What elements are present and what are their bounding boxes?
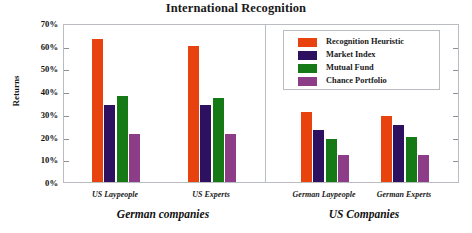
legend-swatch-icon [298,77,317,86]
bar [418,155,429,182]
y-axis-tick-label: 20% [24,134,58,143]
y-axis-tick-mark-right [453,93,458,94]
bar [129,134,140,182]
y-axis-tick-mark [64,70,69,71]
bar [326,139,337,182]
y-axis-tick-label: 60% [24,43,58,52]
legend-swatch-icon [298,51,317,60]
legend-item[interactable]: Recognition Heuristic [284,36,439,49]
legend-label: Recognition Heuristic [326,38,404,46]
bar [393,125,404,182]
bar [117,96,128,182]
bar [104,105,115,182]
legend-item[interactable]: Chance Portfolio [284,75,439,88]
bar [381,116,392,182]
y-axis-tick-label: 10% [24,156,58,165]
y-axis-tick-labels: 70%60%50%40%30%20%10%0% [20,0,58,233]
legend-swatch-icon [298,64,317,73]
y-axis-tick-mark-right [453,48,458,49]
bar [313,130,324,182]
y-axis-tick-mark-right [453,70,458,71]
y-axis-tick-label: 0% [24,179,58,188]
y-axis-tick-mark [64,161,69,162]
chart-root: International Recognition Returns 70%60%… [0,0,472,233]
bar [213,98,224,182]
y-axis-tick-mark-right [453,161,458,162]
bar [406,137,417,182]
y-axis-tick-mark [64,48,69,49]
x-axis-tick-label: US Experts [151,190,271,199]
chart-legend: Recognition HeuristicMarket IndexMutual … [283,30,440,90]
y-axis-tick-mark-right [453,116,458,117]
bar [200,105,211,182]
x-axis-tick-label: German Experts [344,190,464,199]
legend-label: Mutual Fund [326,64,374,72]
panel-label: German companies [73,208,253,220]
y-axis-tick-label: 50% [24,65,58,74]
legend-label: Market Index [326,51,376,59]
chart-title: International Recognition [0,1,472,16]
bar [301,112,312,182]
bar [188,46,199,182]
bar [92,39,103,182]
legend-swatch-icon [298,38,317,47]
panel-label: US Companies [274,208,454,220]
y-axis-tick-mark-right [453,139,458,140]
y-axis-tick-mark [64,116,69,117]
y-axis-tick-label: 70% [24,20,58,29]
legend-item[interactable]: Mutual Fund [284,62,439,75]
y-axis-tick-mark [64,139,69,140]
panel-divider [265,25,266,182]
y-axis-tick-mark [64,93,69,94]
y-axis-tick-label: 40% [24,88,58,97]
bar [225,134,236,182]
bar [338,155,349,182]
legend-item[interactable]: Market Index [284,49,439,62]
y-axis-tick-label: 30% [24,111,58,120]
legend-label: Chance Portfolio [326,77,387,85]
